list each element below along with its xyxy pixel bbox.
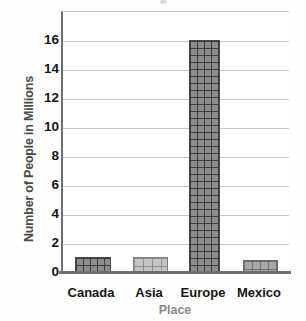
- page-artifact-speck: [160, 0, 167, 4]
- x-axis-title: Place: [61, 303, 289, 317]
- plot-area: [61, 11, 289, 272]
- y-tick-label-12: 12: [33, 91, 59, 105]
- y-tick-label-0: 0: [33, 265, 59, 279]
- y-tick-label-8: 8: [33, 149, 59, 163]
- bar-asia[interactable]: [133, 257, 168, 272]
- x-label-mexico: Mexico: [237, 285, 281, 300]
- x-label-europe: Europe: [181, 285, 226, 300]
- x-axis-category-labels: Canada Asia Europe Mexico: [61, 285, 289, 305]
- x-label-canada: Canada: [68, 285, 115, 300]
- x-label-asia: Asia: [135, 285, 162, 300]
- y-tick-label-14: 14: [33, 62, 59, 76]
- x-axis-baseline: [59, 271, 291, 274]
- y-tick-label-16: 16: [33, 33, 59, 47]
- y-axis-tick-labels: 0 2 4 6 8 10 12 14 16: [33, 11, 59, 272]
- y-tick-label-2: 2: [33, 236, 59, 250]
- bars-layer: [63, 12, 289, 272]
- y-tick-label-10: 10: [33, 120, 59, 134]
- y-tick-label-6: 6: [33, 178, 59, 192]
- bar-chart: Number of People in Millions 0 2 4 6 8 1…: [0, 0, 306, 321]
- bar-europe[interactable]: [189, 40, 220, 272]
- y-tick-label-4: 4: [33, 207, 59, 221]
- bar-canada[interactable]: [75, 257, 111, 272]
